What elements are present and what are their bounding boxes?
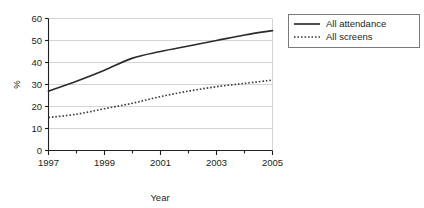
series-line-all-attendance bbox=[49, 31, 273, 92]
line-chart: 0102030405060 19971999200120032005 % Yea… bbox=[0, 0, 424, 208]
y-tick-label: 40 bbox=[31, 57, 42, 68]
legend-label: All screens bbox=[326, 31, 373, 42]
y-tick-label: 50 bbox=[31, 35, 42, 46]
x-axis-title: Year bbox=[150, 192, 169, 203]
y-tick-label: 30 bbox=[31, 79, 42, 90]
x-tick-label: 1999 bbox=[94, 157, 115, 168]
x-tick-label: 2003 bbox=[206, 157, 227, 168]
x-axis-tick-labels: 19971999200120032005 bbox=[38, 157, 283, 168]
y-tick-label: 60 bbox=[31, 13, 42, 24]
data-series bbox=[49, 31, 273, 118]
x-tick-label: 2005 bbox=[262, 157, 283, 168]
chart-legend: All attendanceAll screens bbox=[289, 15, 420, 48]
legend-label: All attendance bbox=[326, 18, 386, 29]
x-tick-label: 2001 bbox=[150, 157, 171, 168]
y-tick-label: 10 bbox=[31, 123, 42, 134]
y-axis-tick-labels: 0102030405060 bbox=[31, 13, 42, 156]
x-axis-ticks bbox=[49, 151, 273, 156]
y-tick-label: 0 bbox=[37, 145, 42, 156]
gridlines bbox=[49, 19, 273, 129]
chart-container: 0102030405060 19971999200120032005 % Yea… bbox=[0, 0, 424, 208]
y-tick-label: 20 bbox=[31, 101, 42, 112]
x-tick-label: 1997 bbox=[38, 157, 59, 168]
y-axis-title: % bbox=[11, 80, 22, 89]
series-line-all-screens bbox=[49, 80, 273, 117]
